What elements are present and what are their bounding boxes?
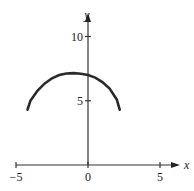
y-tick-label: 5 <box>77 94 83 108</box>
x-tick-label: 0 <box>85 170 91 184</box>
x-axis-label: x <box>183 158 190 172</box>
axes <box>16 13 180 168</box>
y-axis-label: y <box>83 8 90 22</box>
x-axis-arrow-icon <box>171 162 180 168</box>
curve-series <box>28 73 120 110</box>
chart: −505510xy <box>0 0 194 191</box>
x-tick-label: 5 <box>157 170 163 184</box>
tick-labels: −505510xy <box>10 8 190 184</box>
x-tick-label: −5 <box>10 170 23 184</box>
y-tick-label: 10 <box>71 30 83 44</box>
